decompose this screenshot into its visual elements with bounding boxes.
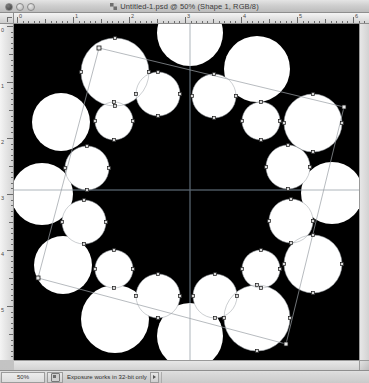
path-anchor-point[interactable]: [79, 70, 82, 73]
canvas-area[interactable]: [14, 24, 359, 360]
ruler-minor-tick: [11, 37, 13, 38]
ruler-label: 2: [131, 14, 134, 19]
path-anchor-point[interactable]: [222, 316, 225, 319]
path-anchor-point[interactable]: [112, 286, 115, 289]
ruler-minor-tick: [11, 88, 13, 89]
path-anchor-point[interactable]: [289, 197, 292, 200]
path-anchor-point[interactable]: [85, 188, 88, 191]
path-anchor-point[interactable]: [264, 165, 267, 168]
path-anchor-point[interactable]: [282, 262, 285, 265]
path-anchor-point[interactable]: [191, 294, 194, 297]
zoom-level-field[interactable]: 50%: [1, 372, 45, 383]
path-anchor-point[interactable]: [156, 70, 159, 73]
path-anchor-point[interactable]: [156, 114, 159, 117]
path-anchor-point[interactable]: [311, 219, 314, 222]
status-popup-button[interactable]: [150, 372, 159, 383]
transform-corner-handle[interactable]: [97, 46, 101, 50]
path-anchor-point[interactable]: [60, 220, 63, 223]
path-anchor-point[interactable]: [112, 138, 115, 141]
path-anchor-point[interactable]: [190, 94, 193, 97]
ruler-minor-tick: [11, 172, 13, 173]
path-anchor-point[interactable]: [278, 119, 281, 122]
path-anchor-point[interactable]: [112, 100, 115, 103]
path-anchor-point[interactable]: [235, 294, 238, 297]
path-anchor-point[interactable]: [311, 291, 314, 294]
path-anchor-point[interactable]: [82, 242, 85, 245]
path-anchor-point[interactable]: [131, 119, 134, 122]
path-anchor-point[interactable]: [212, 72, 215, 75]
path-anchor-point[interactable]: [267, 219, 270, 222]
vertical-ruler[interactable]: 012345: [0, 24, 14, 360]
path-anchor-point[interactable]: [289, 241, 292, 244]
path-anchor-point[interactable]: [134, 92, 137, 95]
path-anchor-point[interactable]: [259, 138, 262, 141]
path-anchor-point[interactable]: [213, 272, 216, 275]
path-anchor-point[interactable]: [93, 119, 96, 122]
path-anchor-point[interactable]: [259, 100, 262, 103]
horizontal-ruler[interactable]: 0123456: [14, 13, 369, 24]
path-anchor-point[interactable]: [340, 262, 343, 265]
shape-circle[interactable]: [81, 285, 149, 353]
ruler-minor-tick: [157, 19, 158, 23]
ruler-minor-tick: [11, 32, 13, 33]
path-anchor-point[interactable]: [63, 166, 66, 169]
path-anchor-point[interactable]: [104, 220, 107, 223]
transform-corner-handle[interactable]: [284, 342, 288, 346]
transform-bounding-box[interactable]: [38, 48, 344, 344]
path-anchor-point[interactable]: [288, 316, 291, 319]
path-anchor-point[interactable]: [282, 121, 285, 124]
path-anchor-point[interactable]: [113, 36, 116, 39]
resize-grip[interactable]: [359, 360, 369, 370]
path-anchor-point[interactable]: [85, 144, 88, 147]
path-anchor-point[interactable]: [178, 294, 181, 297]
path-anchor-point[interactable]: [311, 92, 314, 95]
path-anchor-point[interactable]: [286, 187, 289, 190]
document-proxy-icon[interactable]: [47, 372, 63, 383]
ruler-minor-tick: [9, 222, 13, 223]
ruler-minor-tick: [11, 216, 13, 217]
path-anchor-point[interactable]: [259, 248, 262, 251]
path-anchor-point[interactable]: [234, 94, 237, 97]
path-anchor-point[interactable]: [255, 283, 258, 286]
title-container: Untitled-1.psd @ 50% (Shape 1, RGB/8): [0, 0, 369, 13]
ruler-minor-tick: [135, 21, 136, 23]
vertical-scrollbar[interactable]: [359, 24, 369, 360]
ruler-label: 5: [299, 14, 302, 19]
horizontal-scrollbar[interactable]: [14, 360, 359, 370]
path-anchor-point[interactable]: [107, 166, 110, 169]
path-anchor-point[interactable]: [134, 294, 137, 297]
path-anchor-point[interactable]: [93, 267, 96, 270]
path-anchor-point[interactable]: [286, 143, 289, 146]
ruler-origin-box[interactable]: [0, 13, 14, 24]
path-anchor-point[interactable]: [278, 267, 281, 270]
path-anchor-point[interactable]: [147, 70, 150, 73]
path-anchor-point[interactable]: [112, 248, 115, 251]
ruler-minor-tick: [191, 21, 192, 23]
path-anchor-point[interactable]: [308, 165, 311, 168]
ruler-minor-tick: [11, 43, 13, 44]
photoshop-document-window: Untitled-1.psd @ 50% (Shape 1, RGB/8) 01…: [0, 0, 369, 383]
path-anchor-point[interactable]: [259, 286, 262, 289]
path-anchor-point[interactable]: [311, 233, 314, 236]
path-anchor-point[interactable]: [212, 116, 215, 119]
transform-corner-handle[interactable]: [36, 276, 40, 280]
path-anchor-point[interactable]: [131, 267, 134, 270]
ruler-minor-tick: [11, 104, 13, 105]
path-anchor-point[interactable]: [213, 316, 216, 319]
ruler-minor-tick: [95, 21, 96, 23]
path-anchor-point[interactable]: [156, 316, 159, 319]
ruler-minor-tick: [230, 21, 231, 23]
path-anchor-point[interactable]: [82, 198, 85, 201]
path-anchor-point[interactable]: [311, 150, 314, 153]
path-anchor-point[interactable]: [156, 272, 159, 275]
path-anchor-point[interactable]: [240, 119, 243, 122]
path-anchor-point[interactable]: [240, 267, 243, 270]
transform-corner-handle[interactable]: [342, 105, 346, 109]
title-bar[interactable]: Untitled-1.psd @ 50% (Shape 1, RGB/8): [0, 0, 369, 13]
shape-circle[interactable]: [224, 285, 290, 351]
path-anchor-point[interactable]: [178, 92, 181, 95]
path-anchor-point[interactable]: [255, 349, 258, 352]
path-anchor-point[interactable]: [340, 121, 343, 124]
shape-circle[interactable]: [32, 93, 90, 151]
path-anchor-point[interactable]: [113, 104, 116, 107]
